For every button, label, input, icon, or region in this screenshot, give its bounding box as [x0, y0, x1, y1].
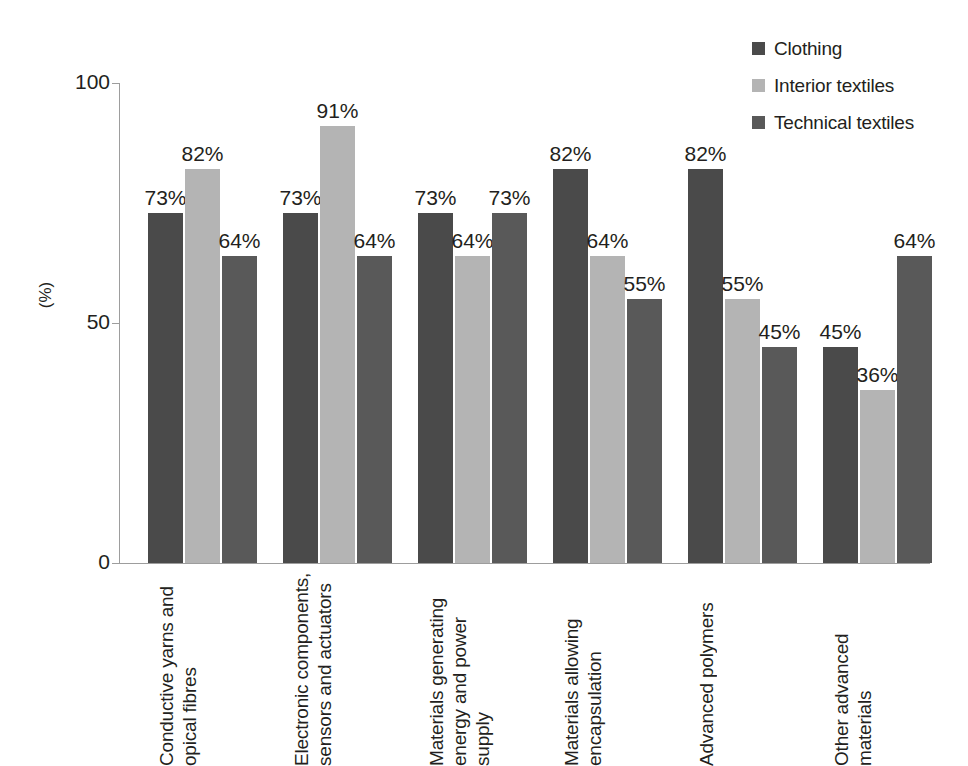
bar[interactable]: 64%: [222, 256, 257, 563]
y-axis-tick-label: 100: [10, 70, 110, 94]
bar[interactable]: 64%: [455, 256, 490, 563]
bar-value-label: 64%: [586, 229, 628, 253]
bar[interactable]: 36%: [860, 390, 895, 563]
y-axis-tick-label: 0: [10, 550, 110, 574]
x-axis-category-label: Conductive yarns and opical fibres: [155, 570, 251, 766]
bar-value-label: 73%: [144, 186, 186, 210]
bar-value-label: 73%: [414, 186, 456, 210]
bar-value-label: 64%: [353, 229, 395, 253]
bar-group: 73%64%73%: [418, 83, 527, 563]
bar-group: 82%55%45%: [688, 83, 797, 563]
y-axis-tick: 0: [0, 563, 110, 564]
bar[interactable]: 73%: [148, 213, 183, 563]
bar-value-label: 73%: [488, 186, 530, 210]
plot-area: 73%82%64%73%91%64%73%64%73%82%64%55%82%5…: [120, 83, 930, 563]
bar-value-label: 36%: [856, 363, 898, 387]
bar-value-label: 64%: [218, 229, 260, 253]
bar[interactable]: 91%: [320, 126, 355, 563]
legend-swatch-icon-clothing: [752, 42, 765, 55]
bar[interactable]: 45%: [762, 347, 797, 563]
bar[interactable]: 73%: [492, 213, 527, 563]
bar[interactable]: 73%: [283, 213, 318, 563]
x-axis-category-label: Other advanced materials: [830, 570, 926, 766]
bar-value-label: 45%: [758, 320, 800, 344]
x-axis-line: [119, 563, 930, 564]
x-axis-category-label: Advanced polymers: [695, 570, 791, 766]
bar-value-label: 82%: [549, 142, 591, 166]
legend-label-clothing: Clothing: [774, 38, 842, 60]
x-axis-labels: Conductive yarns and opical fibresElectr…: [120, 570, 930, 766]
y-axis-tick-mark: [112, 83, 120, 84]
y-axis-tick-mark: [112, 323, 120, 324]
bar-value-label: 82%: [181, 142, 223, 166]
bar[interactable]: 64%: [590, 256, 625, 563]
bar[interactable]: 82%: [185, 169, 220, 563]
bar-value-label: 64%: [451, 229, 493, 253]
y-axis-tick-label: 50: [10, 310, 110, 334]
bar-value-label: 55%: [623, 272, 665, 296]
bar-chart: Clothing Interior textiles Technical tex…: [0, 0, 968, 766]
bar[interactable]: 64%: [897, 256, 932, 563]
bar[interactable]: 55%: [725, 299, 760, 563]
y-axis-tick-mark: [112, 563, 120, 564]
bar[interactable]: 55%: [627, 299, 662, 563]
bar-value-label: 55%: [721, 272, 763, 296]
bar-group: 73%82%64%: [148, 83, 257, 563]
bar-group: 45%36%64%: [823, 83, 932, 563]
legend-item-clothing[interactable]: Clothing: [752, 30, 962, 67]
y-axis-title: (%): [36, 282, 56, 308]
y-axis-tick: 100: [0, 83, 110, 84]
bar[interactable]: 82%: [688, 169, 723, 563]
bar-group: 82%64%55%: [553, 83, 662, 563]
bar[interactable]: 82%: [553, 169, 588, 563]
x-axis-category-label: Materials allowing encapsulation: [560, 570, 656, 766]
bar[interactable]: 64%: [357, 256, 392, 563]
bar-value-label: 91%: [316, 99, 358, 123]
bar[interactable]: 45%: [823, 347, 858, 563]
bar-value-label: 73%: [279, 186, 321, 210]
x-axis-category-label: Electronic components, sensors and actua…: [290, 570, 386, 766]
bar-group: 73%91%64%: [283, 83, 392, 563]
bar-value-label: 82%: [684, 142, 726, 166]
bar-value-label: 45%: [819, 320, 861, 344]
y-axis-tick: 50: [0, 323, 110, 324]
bar[interactable]: 73%: [418, 213, 453, 563]
x-axis-category-label: Materials generating energy and power su…: [425, 570, 521, 766]
bar-value-label: 64%: [893, 229, 935, 253]
